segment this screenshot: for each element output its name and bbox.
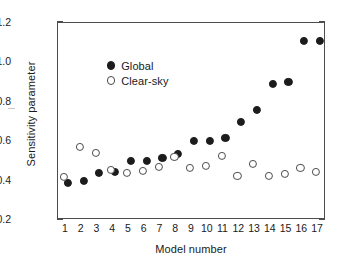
data-point-clear-sky [233,172,241,180]
data-point-clear-sky [249,160,257,168]
data-point-global [206,137,214,145]
data-point-clear-sky [170,153,178,161]
data-point-global [300,37,308,45]
legend-label-clear-sky: Clear-sky [121,75,168,87]
x-tick-label: 17 [305,222,329,234]
data-point-clear-sky [296,164,304,172]
legend-label-global: Global [121,60,153,72]
data-point-clear-sky [154,163,162,171]
filled-circle-icon [107,61,115,69]
y-tick-label: 0.4 [0,174,11,186]
plot-area-frame [57,22,325,219]
scan-artifact-mark [8,108,15,109]
data-point-global [127,157,135,165]
data-point-global [95,169,103,177]
y-tick-label: 0.8 [0,95,11,107]
data-point-clear-sky [91,149,99,157]
data-point-global [190,137,198,145]
data-point-global [284,78,292,86]
y-tick-label: 0.6 [0,134,11,146]
data-point-clear-sky [218,152,226,160]
open-circle-icon [107,76,115,84]
legend-item-global: Global [107,58,169,73]
data-point-clear-sky [265,172,273,180]
chart-legend: Global Clear-sky [107,58,169,88]
data-point-global [237,117,245,125]
data-point-global [316,37,324,45]
legend-item-clear-sky: Clear-sky [107,73,169,88]
data-point-clear-sky [202,162,210,170]
x-axis-label: Model number [57,243,325,255]
y-tick-label: 0.2 [0,213,11,225]
data-point-clear-sky [186,164,194,172]
data-point-clear-sky [76,143,84,151]
data-point-clear-sky [139,167,147,175]
data-point-global [79,177,87,185]
data-point-global [158,154,166,162]
y-tick-label: 1.0 [0,55,11,67]
data-point-global [269,80,277,88]
data-point-global [221,134,229,142]
data-point-clear-sky [281,170,289,178]
y-axis-label: Sensitivity parameter [25,19,37,209]
scatter-chart-figure: Sensitivity parameter Model number 0.20.… [0,0,342,270]
data-point-clear-sky [312,168,320,176]
data-point-clear-sky [123,169,131,177]
y-tick-label: 1.2 [0,16,11,28]
data-point-global [143,157,151,165]
data-point-global [253,106,261,114]
